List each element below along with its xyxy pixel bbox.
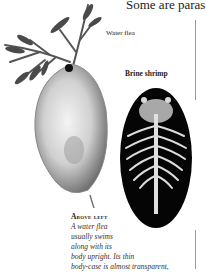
caption-line: along with its: [71, 242, 196, 252]
caption-line: body-case is almost transparent,: [71, 262, 196, 272]
caption-heading: Above left: [71, 212, 196, 222]
brine-shrimp-label: Brine shrimp: [125, 69, 168, 78]
page-headline: Some are paras: [126, 0, 205, 13]
caption-line: A water flea: [71, 222, 196, 232]
water-flea-illustration: [0, 0, 110, 210]
caption-line: usually swims: [71, 232, 196, 242]
figure-caption: Above left A water flea usually swims al…: [71, 212, 196, 272]
water-flea-label: Water flea: [106, 29, 135, 37]
caption-line: body upright. Its thin: [71, 252, 196, 262]
